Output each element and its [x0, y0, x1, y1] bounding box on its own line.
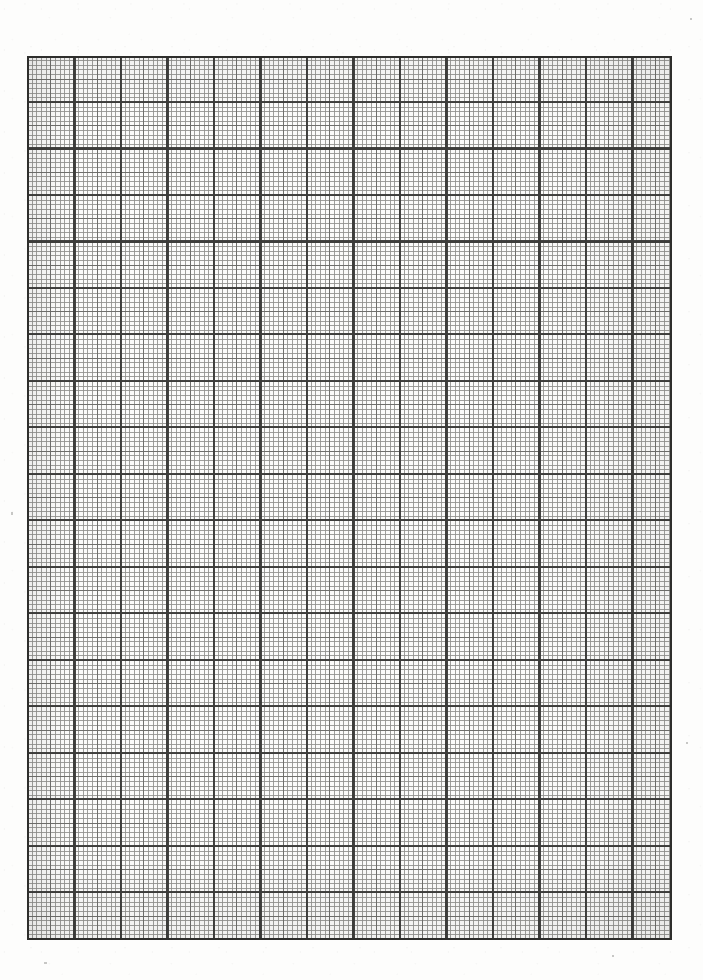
major-grid-lines: [27, 56, 672, 940]
scanned-graph-paper-page: [0, 0, 703, 980]
scan-speck-left-margin: [11, 512, 13, 515]
graph-paper-grid: [27, 56, 672, 940]
scan-speck-right-margin: [686, 742, 688, 744]
fine-grid-lines: [27, 56, 672, 940]
scan-speck-bottom-right: [612, 955, 614, 957]
medium-grid-lines: [27, 56, 672, 940]
scan-shading: [27, 56, 672, 940]
grid-border: [27, 56, 672, 940]
scan-speck-bottom-left: [44, 962, 47, 964]
scan-speck-top-right: [690, 18, 692, 20]
